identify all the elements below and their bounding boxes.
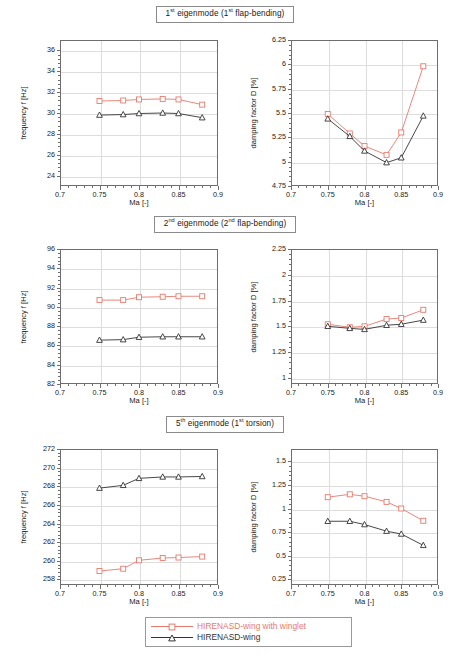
y-axis-title: damping factor D [%] [250,482,258,553]
x-axis-minor-tick [298,186,299,188]
x-axis-minor-tick [131,384,132,386]
y-axis-tick-label: 36 [47,47,55,54]
x-axis-minor-tick [320,384,321,386]
square-marker-icon [168,622,177,631]
chart-mode2-damping: 11.251.51.7522.250.70.750.80.850.9Ma [-]… [291,249,438,384]
y-axis-tick-label: 2.25 [272,245,286,252]
x-axis-minor-tick [335,186,336,188]
x-axis-tick-label: 0.9 [213,590,223,597]
x-axis-tick-label: 0.8 [134,590,144,597]
data-point-square [399,316,404,321]
y-axis-tick-label: 1.25 [272,348,286,355]
x-axis-minor-tick [394,384,395,386]
x-axis-title: Ma [-] [60,598,218,606]
y-axis-tick-label: 96 [47,245,55,252]
data-point-square [421,64,426,69]
y-axis-tick-label: 258 [43,576,55,583]
x-axis-minor-tick [342,585,343,587]
x-axis-minor-tick [357,186,358,188]
data-point-triangle [420,113,426,118]
x-axis-minor-tick [194,186,195,188]
y-axis-tick-label: 6.25 [272,36,286,43]
series-line-winglet [100,99,203,105]
x-axis-minor-tick [372,384,373,386]
x-axis-tick-label: 0.9 [213,191,223,198]
x-axis-minor-tick [123,384,124,386]
y-axis-tick-label: 0.25 [272,576,286,583]
x-axis-minor-tick [115,186,116,188]
x-axis-minor-tick [115,384,116,386]
data-point-square [97,99,102,104]
data-point-square [421,518,426,523]
y-axis-tick-label: 264 [43,520,55,527]
data-point-square [137,558,142,563]
x-axis-tick-label: 0.7 [286,389,296,396]
row-3-title: 5th eigenmode (1st torsion) [0,416,450,433]
y-axis-tick-label: 26 [47,151,55,158]
x-axis-minor-tick [394,186,395,188]
x-axis-title: Ma [-] [291,199,438,207]
row-2-title-text: 2nd eigenmode (2nd flap-bending) [154,216,297,233]
y-axis-tick-label: 1.25 [272,481,286,488]
x-axis-minor-tick [171,384,172,386]
x-axis-tick-label: 0.9 [433,389,443,396]
x-axis-minor-tick [68,186,69,188]
data-point-square [121,298,126,303]
y-axis-tick-label: 270 [43,464,55,471]
row-2-title: 2nd eigenmode (2nd flap-bending) [0,216,450,233]
x-axis-minor-tick [409,186,410,188]
x-axis-minor-tick [335,384,336,386]
x-axis-minor-tick [350,384,351,386]
x-axis-minor-tick [379,585,380,587]
x-axis-minor-tick [423,585,424,587]
y-axis-tick-label: 0.5 [276,552,286,559]
data-point-triangle [398,155,404,160]
y-axis-tick-label: 32 [47,89,55,96]
y-axis-tick-label: 34 [47,68,55,75]
data-point-square [176,294,181,299]
data-point-square [347,492,352,497]
series-layer [60,249,218,384]
x-axis-minor-tick [416,585,417,587]
x-axis-tick-label: 0.7 [286,590,296,597]
y-axis-tick-label: 94 [47,265,55,272]
x-axis-minor-tick [357,585,358,587]
x-axis-minor-tick [313,384,314,386]
data-point-triangle [160,110,166,115]
x-axis-minor-tick [342,186,343,188]
series-line-wing [100,337,203,340]
x-axis-minor-tick [76,585,77,587]
x-axis-minor-tick [202,186,203,188]
y-axis-tick-label: 262 [43,539,55,546]
data-point-square [384,152,389,157]
x-axis-minor-tick [210,585,211,587]
legend-key-winglet [151,621,193,632]
y-axis-tick-label: 28 [47,130,55,137]
x-axis-minor-tick [423,186,424,188]
x-axis-minor-tick [210,186,211,188]
x-axis-minor-tick [84,585,85,587]
data-point-square [160,555,165,560]
x-axis-minor-tick [306,384,307,386]
x-axis-title: Ma [-] [291,598,438,606]
x-axis-minor-tick [387,186,388,188]
x-axis-tick-label: 0.8 [134,389,144,396]
x-axis-minor-tick [320,585,321,587]
x-axis-minor-tick [92,186,93,188]
x-axis-minor-tick [131,585,132,587]
y-axis-tick-label: 0.75 [272,529,286,536]
x-axis-minor-tick [387,585,388,587]
x-axis-tick-label: 0.85 [172,191,186,198]
y-axis-tick-label: 82 [47,380,55,387]
y-axis-title: damping factor D [%] [250,78,258,149]
chart-mode2-frequency: 82848688909294960.70.750.80.850.9Ma [-]f… [60,249,218,384]
data-point-square [137,97,142,102]
chart-mode5-damping: 0.250.50.7511.251.50.70.750.80.850.9Ma [… [291,449,438,585]
y-axis-tick-label: 272 [43,445,55,452]
x-axis-minor-tick [171,186,172,188]
chart-mode1-damping: 4.7555.255.55.7566.250.70.750.80.850.9Ma… [291,40,438,186]
x-axis-minor-tick [131,186,132,188]
y-axis-tick-label: 24 [47,172,55,179]
x-axis-minor-tick [147,186,148,188]
x-axis-minor-tick [186,384,187,386]
